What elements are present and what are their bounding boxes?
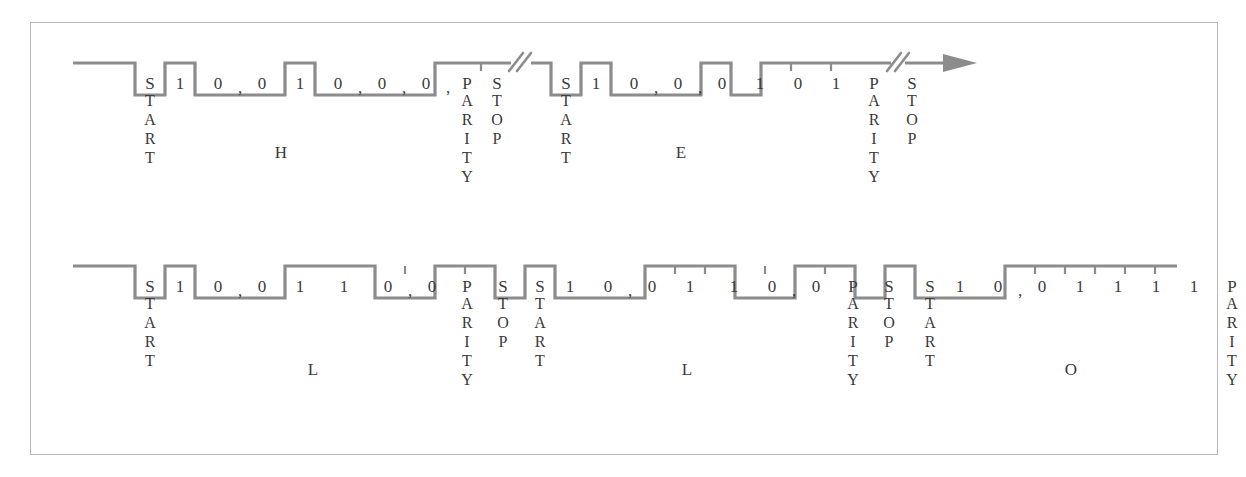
vl-char: O	[497, 315, 509, 334]
bit-label: 0	[994, 278, 1003, 295]
vl-char: P	[883, 334, 895, 353]
vl-char: T	[461, 353, 473, 372]
vl-char: R	[847, 315, 859, 334]
bit-label: 0	[630, 75, 639, 92]
bit-label: 1	[756, 75, 765, 92]
character-label: E	[676, 143, 686, 163]
bit-label-stop: S	[884, 278, 893, 295]
bit-label: 0	[214, 278, 223, 295]
vl-char: Y	[1226, 372, 1238, 391]
bit-label-parity: P	[462, 75, 471, 92]
label-parity: A R I T Y	[461, 93, 473, 188]
bit-label: 0	[214, 75, 223, 92]
bit-label: 0	[718, 75, 727, 92]
label-parity: A R I T Y	[461, 296, 473, 391]
bit-label: 0	[378, 75, 387, 92]
bit-label: 0	[428, 278, 437, 295]
bit-label: 0	[334, 75, 343, 92]
vl-char: A	[924, 315, 936, 334]
vl-char: T	[924, 353, 936, 372]
vl-char: T	[534, 296, 546, 315]
vl-char: R	[144, 131, 156, 150]
row-1-break-symbol-1	[509, 53, 531, 71]
bit-label: S	[145, 278, 154, 295]
bit-label-parity: P	[462, 278, 471, 295]
bit-separator: ,	[1018, 282, 1022, 299]
vl-char: T	[906, 93, 918, 112]
label-start: T A R T	[534, 296, 546, 372]
bit-label: 0	[422, 75, 431, 92]
bit-separator: ,	[402, 79, 406, 96]
vl-char: O	[906, 112, 918, 131]
bit-label: 1	[296, 278, 305, 295]
bit-label: 1	[1152, 278, 1161, 295]
vl-char: T	[144, 150, 156, 169]
vl-char: O	[491, 112, 503, 131]
character-label: L	[308, 360, 318, 380]
vl-char: T	[144, 296, 156, 315]
label-start: T A R T	[144, 296, 156, 372]
bit-label: 0	[768, 278, 777, 295]
bit-separator: ,	[408, 282, 412, 299]
vl-char: A	[534, 315, 546, 334]
vl-char: R	[534, 334, 546, 353]
vl-char: T	[560, 93, 572, 112]
bit-label: 0	[384, 278, 393, 295]
vl-char: I	[1226, 334, 1238, 353]
vl-char: A	[868, 93, 880, 112]
vl-char: T	[497, 296, 509, 315]
bit-label: 1	[832, 75, 841, 92]
vl-char: T	[924, 296, 936, 315]
vl-char: A	[461, 296, 473, 315]
label-start: T A R T	[144, 93, 156, 169]
vl-char: T	[144, 93, 156, 112]
bit-label: 1	[1190, 278, 1199, 295]
bit-label: S	[925, 278, 934, 295]
vl-char: T	[560, 150, 572, 169]
vl-char: P	[497, 334, 509, 353]
vl-char: Y	[868, 169, 880, 188]
vl-char: P	[491, 131, 503, 150]
vl-char: Y	[461, 372, 473, 391]
bit-separator: ,	[792, 282, 796, 299]
bit-separator: ,	[358, 79, 362, 96]
vl-char: T	[868, 150, 880, 169]
bit-label: 1	[686, 278, 695, 295]
vl-char: R	[868, 112, 880, 131]
bit-label: 1	[1114, 278, 1123, 295]
bit-label: 0	[812, 278, 821, 295]
label-parity: A R I T Y	[847, 296, 859, 391]
waveform-canvas	[31, 23, 1217, 454]
bit-label: 0	[604, 278, 613, 295]
bit-label: 1	[176, 75, 185, 92]
bit-separator: ,	[238, 79, 242, 96]
diagram-page: S 1 0 , 0 1 0 , 0 , 0 , P S S 1 0 , 0 , …	[0, 0, 1246, 477]
vl-char: A	[1226, 296, 1238, 315]
character-label: H	[275, 143, 287, 163]
label-start: T A R T	[924, 296, 936, 372]
bit-label: 0	[794, 75, 803, 92]
vl-char: A	[144, 315, 156, 334]
vl-char: T	[491, 93, 503, 112]
arrow-head-icon	[943, 54, 977, 72]
bit-label: 1	[592, 75, 601, 92]
vl-char: Y	[847, 372, 859, 391]
vl-char: A	[847, 296, 859, 315]
bit-label-stop: S	[498, 278, 507, 295]
vl-char: T	[1226, 353, 1238, 372]
vl-char: A	[461, 93, 473, 112]
diagram-frame: S 1 0 , 0 1 0 , 0 , 0 , P S S 1 0 , 0 , …	[30, 22, 1218, 455]
vl-char: T	[461, 150, 473, 169]
bit-label-parity: P	[869, 75, 878, 92]
vl-char: A	[560, 112, 572, 131]
label-stop: T O P	[497, 296, 509, 353]
bit-label: 0	[674, 75, 683, 92]
bit-separator: ,	[628, 282, 632, 299]
label-stop: T O P	[883, 296, 895, 353]
bit-label: 0	[1038, 278, 1047, 295]
vl-char: A	[144, 112, 156, 131]
vl-char: R	[1226, 315, 1238, 334]
bit-label: 0	[648, 278, 657, 295]
bit-label: 1	[340, 278, 349, 295]
bit-label: 1	[566, 278, 575, 295]
